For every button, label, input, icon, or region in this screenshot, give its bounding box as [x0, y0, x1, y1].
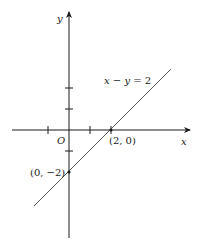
point-0-neg2 — [67, 170, 70, 173]
y-axis-label: y — [56, 13, 63, 24]
x-axis-label: x — [181, 136, 187, 147]
equation-line — [34, 69, 171, 206]
point-2-0-label: (2, 0) — [109, 135, 136, 146]
origin-label: O — [57, 135, 65, 146]
point-0-neg2-label: (0, −2) — [30, 167, 65, 178]
point-2-0 — [109, 128, 112, 131]
equation-label: x − y = 2 — [104, 75, 151, 86]
cartesian-plot: y x O x − y = 2 (2, 0) (0, −2) — [0, 0, 202, 245]
